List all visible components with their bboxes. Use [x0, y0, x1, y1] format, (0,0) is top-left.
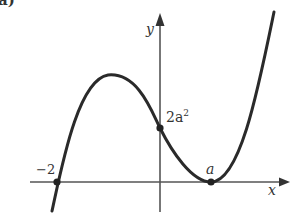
label-a: a [206, 161, 214, 177]
x-axis-arrow-icon [279, 178, 290, 187]
label-exponent: 2 [183, 108, 189, 118]
point-minus-2 [53, 178, 60, 185]
label-y-intercept: 2a2 [166, 108, 189, 125]
cubic-graph: a) y x −2 2a2 a [0, 0, 293, 219]
y-axis-arrow-icon [156, 13, 165, 26]
part-label: a) [0, 0, 15, 9]
label-minus-2: −2 [36, 162, 55, 177]
label-2a: 2a [166, 109, 183, 125]
point-y-intercept [156, 124, 163, 131]
x-axis-label: x [268, 182, 276, 198]
y-axis-label: y [145, 21, 155, 37]
cubic-curve [52, 12, 274, 211]
point-a [207, 178, 214, 185]
